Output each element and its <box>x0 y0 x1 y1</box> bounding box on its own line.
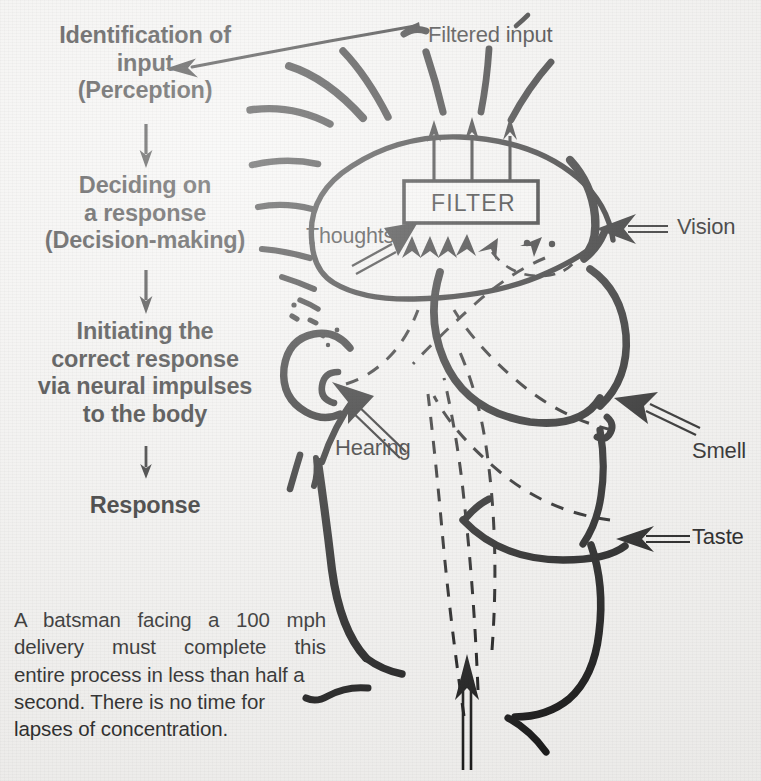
flow-line: to the body <box>0 401 290 429</box>
smell-pointer-arrow <box>614 392 700 435</box>
flow-line: (Decision-making) <box>0 227 290 255</box>
flow-line: Response <box>0 492 290 520</box>
dashed-line-icon <box>346 258 612 716</box>
flow-line: Deciding on <box>0 172 290 200</box>
caption-line: delivery must complete this <box>14 633 326 660</box>
label-hearing: Hearing <box>335 435 411 461</box>
flow-line: input <box>0 50 290 78</box>
caption-line: second. There is no time for <box>14 688 326 715</box>
flow-line: (Perception) <box>0 77 290 105</box>
flow-line: Initiating the <box>0 318 290 346</box>
label-filtered-input: Filtered input <box>428 22 552 48</box>
label-taste: Taste <box>692 524 744 550</box>
caption-line: entire process in less than half a <box>14 661 326 688</box>
diagram-page: attention <box>0 0 761 781</box>
filter-box-label: FILTER <box>431 190 516 217</box>
flow-step-initiation: Initiating the correct response via neur… <box>0 318 290 429</box>
caption-line: A batsman facing a 100 mph <box>14 606 326 633</box>
caption-line: lapses of concentration. <box>14 715 326 742</box>
label-smell: Smell <box>692 438 746 464</box>
label-vision: Vision <box>677 214 735 240</box>
flow-line: Identification of <box>0 22 290 50</box>
flow-step-decision: Deciding on a response (Decision-making) <box>0 172 290 255</box>
flow-line: via neural impulses <box>0 373 290 401</box>
body-input-arrow <box>455 654 479 770</box>
flow-step-perception: Identification of input (Perception) <box>0 22 290 105</box>
flow-line: correct response <box>0 346 290 374</box>
flow-line: a response <box>0 200 290 228</box>
caption-paragraph: A batsman facing a 100 mph delivery must… <box>14 606 326 742</box>
inlet-arrowheads <box>402 234 542 260</box>
flow-step-response: Response <box>0 492 290 520</box>
label-thoughts: Thoughts <box>306 224 394 249</box>
